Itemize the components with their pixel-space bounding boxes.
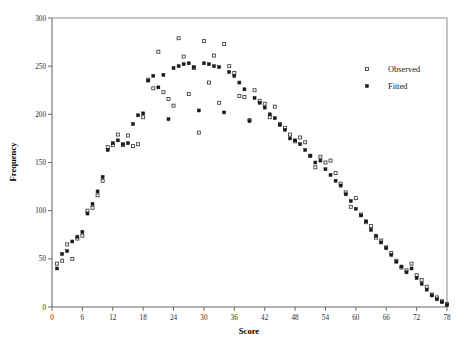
data-point-fitted	[435, 298, 438, 301]
data-point-fitted	[187, 62, 190, 65]
data-point-observed	[207, 81, 210, 84]
data-point-fitted	[309, 154, 312, 157]
legend-marker-observed	[366, 68, 369, 71]
data-point-observed	[86, 209, 89, 212]
x-tick-label: 66	[383, 314, 391, 322]
legend-label-observed: Observed	[388, 65, 421, 74]
data-point-fitted	[96, 190, 99, 193]
x-tick-label: 0	[50, 314, 54, 322]
data-point-fitted	[314, 161, 317, 164]
data-point-observed	[299, 136, 302, 139]
x-axis-title: Score	[239, 326, 260, 336]
data-point-fitted	[121, 143, 124, 146]
data-point-observed	[56, 262, 59, 265]
data-point-observed	[273, 105, 276, 108]
data-point-observed	[243, 95, 246, 98]
data-point-observed	[238, 95, 241, 98]
data-point-fitted	[223, 111, 226, 114]
data-point-fitted	[71, 240, 74, 243]
plot-frame	[52, 18, 447, 307]
data-point-observed	[314, 166, 317, 169]
data-point-observed	[197, 131, 200, 134]
data-point-observed	[152, 87, 155, 90]
data-point-fitted	[157, 86, 160, 89]
data-point-observed	[162, 91, 165, 94]
data-point-fitted	[354, 207, 357, 210]
y-axis-title: Frequency	[8, 142, 18, 182]
data-point-fitted	[213, 65, 216, 68]
x-tick-label: 30	[200, 314, 208, 322]
data-point-fitted	[294, 139, 297, 142]
axis-ticks	[48, 18, 447, 311]
x-tick-label: 6	[81, 314, 85, 322]
data-point-observed	[172, 104, 175, 107]
data-point-fitted	[76, 235, 79, 238]
data-point-fitted	[268, 113, 271, 116]
axis-tick-labels: 0501001502002503000612182430364248546066…	[35, 15, 451, 322]
data-point-fitted	[147, 79, 150, 82]
data-point-fitted	[446, 304, 449, 307]
data-point-observed	[304, 141, 307, 144]
y-tick-label: 300	[35, 15, 46, 23]
data-point-fitted	[66, 250, 69, 253]
data-point-fitted	[375, 234, 378, 237]
x-tick-label: 72	[413, 314, 421, 322]
data-point-observed	[349, 205, 352, 208]
data-point-fitted	[415, 277, 418, 280]
data-point-fitted	[400, 265, 403, 268]
data-point-observed	[253, 89, 256, 92]
data-point-observed	[116, 133, 119, 136]
data-point-fitted	[106, 148, 109, 151]
data-point-observed	[71, 257, 74, 260]
data-point-fitted	[283, 128, 286, 131]
data-point-fitted	[182, 63, 185, 66]
data-point-fitted	[177, 65, 180, 68]
data-point-observed	[177, 37, 180, 40]
x-tick-label: 78	[443, 314, 451, 322]
x-tick-label: 12	[109, 314, 117, 322]
data-point-fitted	[192, 66, 195, 69]
data-point-observed	[415, 274, 418, 277]
data-point-fitted	[329, 174, 332, 177]
data-point-fitted	[228, 70, 231, 73]
data-point-fitted	[152, 74, 155, 77]
data-point-observed	[223, 43, 226, 46]
data-point-observed	[289, 133, 292, 136]
data-point-observed	[425, 285, 428, 288]
data-point-fitted	[324, 168, 327, 171]
data-point-observed	[96, 194, 99, 197]
data-point-observed	[213, 54, 216, 57]
x-tick-label: 24	[170, 314, 178, 322]
data-point-fitted	[56, 267, 59, 270]
data-point-observed	[324, 161, 327, 164]
y-tick-label: 150	[35, 159, 46, 167]
y-tick-label: 0	[42, 304, 46, 312]
data-point-fitted	[339, 184, 342, 187]
data-point-fitted	[233, 74, 236, 77]
x-tick-label: 36	[231, 314, 239, 322]
data-point-fitted	[299, 143, 302, 146]
data-point-observed	[263, 102, 266, 105]
data-point-observed	[202, 40, 205, 43]
data-point-fitted	[172, 67, 175, 70]
data-point-observed	[182, 55, 185, 58]
data-point-fitted	[167, 118, 170, 121]
data-point-observed	[268, 116, 271, 119]
data-point-fitted	[390, 253, 393, 256]
data-point-observed	[334, 172, 337, 175]
data-point-fitted	[197, 109, 200, 112]
chart-figure: 0501001502002503000612182430364248546066…	[0, 0, 475, 345]
data-point-observed	[218, 101, 221, 104]
data-point-fitted	[126, 142, 129, 145]
data-points	[56, 37, 449, 307]
data-point-observed	[106, 146, 109, 149]
data-point-fitted	[395, 260, 398, 263]
data-point-fitted	[61, 253, 64, 256]
data-point-fitted	[142, 112, 145, 115]
scatter-plot: 0501001502002503000612182430364248546066…	[0, 0, 475, 345]
data-point-observed	[354, 197, 357, 200]
x-tick-label: 18	[140, 314, 148, 322]
data-point-fitted	[91, 202, 94, 205]
y-tick-label: 250	[35, 63, 46, 71]
data-point-fitted	[370, 228, 373, 231]
